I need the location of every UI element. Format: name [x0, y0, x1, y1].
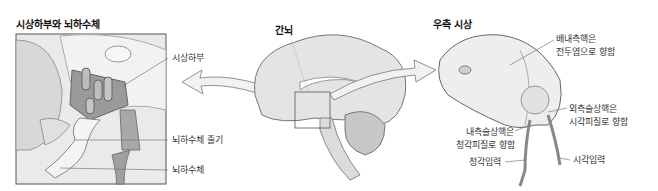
- center-panel-title: 간뇌: [275, 22, 293, 37]
- label-hypothalamus: 시상하부: [172, 52, 204, 64]
- thalamus: [439, 35, 570, 186]
- label-auditory-input: 청각입력: [469, 156, 501, 168]
- label-pulvinar-1: 배내측핵은: [556, 33, 596, 45]
- label-pituitary: 뇌하수체: [172, 164, 204, 176]
- label-mgn-1: 내측슬상핵은: [466, 126, 514, 138]
- left-panel-title: 시상하부와 뇌하수체: [16, 16, 100, 31]
- label-visual-input: 시각입력: [573, 154, 605, 166]
- right-panel-title: 우측 시상: [433, 16, 472, 31]
- hypothalamus-closeup: [16, 34, 168, 184]
- label-lgn-1: 외측슬상핵은: [569, 103, 617, 115]
- label-mgn-2: 청각피질로 향함: [456, 139, 515, 151]
- label-pulvinar-2: 전두엽으로 향함: [556, 46, 615, 58]
- label-pituitary-stalk: 뇌하수체 줄기: [172, 134, 223, 146]
- brain-sagittal: [255, 35, 406, 180]
- label-lgn-2: 시각피질로 향함: [569, 116, 628, 128]
